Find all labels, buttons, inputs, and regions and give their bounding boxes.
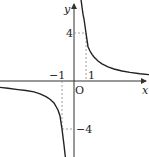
origin-label: O — [75, 84, 84, 97]
x-tick-neg1: −1 — [49, 69, 65, 82]
curve-branch-negative — [0, 87, 65, 157]
x-tick-1: 1 — [88, 69, 95, 82]
x-axis-label: x — [142, 84, 149, 97]
y-tick-neg4: −4 — [76, 123, 92, 136]
curve-branch-positive — [81, 0, 149, 75]
graph-canvas: y x O 4 1 −1 −4 — [0, 0, 149, 157]
y-axis-label: y — [63, 3, 71, 16]
y-tick-4: 4 — [66, 27, 73, 40]
